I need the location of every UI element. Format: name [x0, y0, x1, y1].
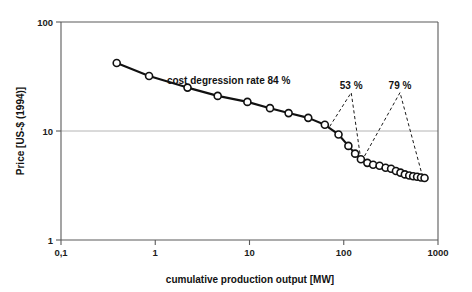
y-tick-label-0: 1: [48, 235, 54, 246]
data-point-marker: [421, 175, 428, 182]
annotation-segment-79: 79 %: [389, 80, 412, 91]
chart-background: [0, 0, 472, 292]
chart-figure: 0,11101001000 110100 cost degression rat…: [0, 0, 472, 292]
x-tick-label-0: 0,1: [54, 247, 68, 258]
data-point-marker: [352, 150, 359, 157]
data-point-marker: [146, 72, 153, 79]
annotation-degression-84: cost degression rate 84 %: [167, 75, 290, 86]
chart-canvas: 0,11101001000 110100 cost degression rat…: [0, 0, 472, 292]
y-axis-title: Price [US-$ (1994)]: [15, 87, 26, 175]
x-axis-title: cumulative production output [MW]: [166, 274, 334, 285]
data-point-marker: [305, 114, 312, 121]
data-point-marker: [214, 92, 221, 99]
x-tick-label-3: 100: [336, 247, 352, 258]
x-tick-label-2: 10: [244, 247, 255, 258]
x-tick-label-1: 1: [153, 247, 159, 258]
annotation-segment-53: 53 %: [340, 80, 363, 91]
data-point-marker: [113, 60, 120, 67]
y-tick-label-2: 100: [37, 17, 53, 28]
y-tick-label-1: 10: [42, 126, 53, 137]
data-point-marker: [335, 131, 342, 138]
data-point-marker: [285, 110, 292, 117]
data-point-marker: [345, 142, 352, 149]
data-point-marker: [267, 105, 274, 112]
x-tick-label-4: 1000: [427, 247, 448, 258]
data-point-marker: [244, 98, 251, 105]
data-point-marker: [321, 121, 328, 128]
